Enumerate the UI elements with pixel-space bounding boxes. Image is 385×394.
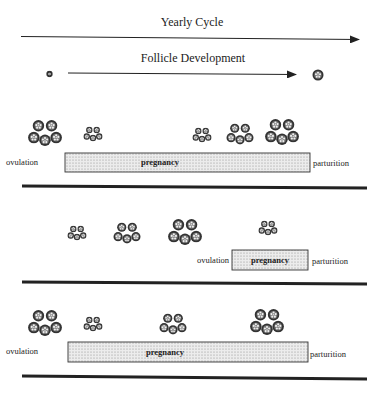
yearly-cycle-arrow — [21, 37, 359, 40]
ground-line — [22, 186, 367, 188]
ground-line — [22, 376, 367, 379]
follicle-icon — [179, 233, 191, 245]
pregnancy-bar — [65, 153, 310, 172]
follicle-icon — [128, 223, 137, 232]
follicle-icon — [93, 127, 99, 133]
follicle-icon — [28, 132, 40, 144]
follicle-cluster-small — [259, 221, 278, 236]
follicle-cluster-large — [265, 119, 299, 145]
follicle-icon — [195, 128, 201, 134]
follicle-icon — [86, 127, 92, 133]
follicle-icon — [186, 219, 198, 231]
follicle-icon — [70, 226, 76, 232]
follicle-icon — [84, 133, 90, 139]
follicle-development-label: Follicle Development — [141, 51, 246, 65]
follicle-icon — [113, 232, 122, 241]
pregnancy-label: pregnancy — [146, 347, 185, 357]
follicle-cluster-large — [250, 309, 284, 335]
ovulation-label: ovulation — [197, 255, 230, 265]
follicle-icon — [244, 133, 253, 142]
follicle-icon — [77, 226, 83, 232]
follicle-icon — [122, 234, 131, 243]
small-follicle-icon — [46, 71, 52, 77]
follicle-cluster-small — [84, 317, 103, 332]
ovulation-label: ovulation — [6, 346, 39, 356]
follicle-icon — [199, 136, 205, 142]
follicle-cluster-medium — [113, 223, 140, 244]
follicle-clusters — [28, 309, 284, 336]
follicle-icon — [268, 221, 274, 227]
follicle-icon — [68, 232, 74, 238]
follicle-icon — [265, 229, 271, 235]
follicle-icon — [80, 232, 86, 238]
follicle-icon — [193, 134, 199, 140]
follicle-development-arrow — [68, 73, 296, 75]
follicle-icon — [168, 325, 177, 334]
follicle-icon — [117, 223, 126, 232]
follicle-icon — [39, 134, 51, 146]
follicle-icon — [261, 323, 273, 335]
follicle-icon — [205, 134, 211, 140]
follicle-clusters — [68, 219, 278, 245]
follicle-cluster-small — [68, 226, 87, 241]
parturition-label: parturition — [312, 256, 349, 266]
follicle-icon — [74, 234, 80, 240]
follicle-cluster-large — [168, 219, 202, 245]
follicle-icon — [235, 135, 244, 144]
follicle-icon — [265, 131, 277, 143]
follicle-icon — [276, 133, 288, 145]
follicle-cluster-small — [84, 127, 103, 142]
pregnancy-label: pregnancy — [141, 157, 180, 167]
cycle-row-1: ovulation pregnancy parturition — [6, 119, 367, 188]
follicle-icon — [174, 314, 183, 323]
follicle-icon — [96, 323, 102, 329]
follicle-icon — [46, 120, 58, 132]
follicle-icon — [33, 120, 45, 132]
follicle-icon — [177, 323, 186, 332]
follicle-icon — [271, 227, 277, 233]
follicle-icon — [261, 221, 267, 227]
pregnancy-bar — [68, 342, 308, 362]
follicle-icon — [50, 132, 62, 144]
follicle-cluster-large — [28, 310, 62, 336]
parturition-label: parturition — [310, 349, 347, 359]
follicle-icon — [168, 231, 180, 243]
follicle-icon — [270, 119, 282, 131]
follicle-icon — [173, 219, 185, 231]
follicle-icon — [255, 309, 267, 321]
follicle-icon — [90, 135, 96, 141]
follicle-icon — [46, 310, 58, 322]
follicle-icon — [84, 323, 90, 329]
reproductive-cycle-diagram: Yearly Cycle Follicle Development ovulat… — [0, 0, 385, 394]
follicle-icon — [93, 317, 99, 323]
follicle-icon — [283, 119, 295, 131]
follicle-icon — [131, 232, 140, 241]
follicle-cluster-small — [193, 128, 212, 143]
follicle-icon — [272, 321, 284, 333]
follicle-icon — [159, 323, 168, 332]
follicle-icon — [226, 133, 235, 142]
follicle-icon — [86, 317, 92, 323]
follicle-icon — [259, 227, 265, 233]
yearly-cycle-label: Yearly Cycle — [161, 15, 223, 29]
follicle-icon — [90, 325, 96, 331]
follicle-cluster-medium — [226, 124, 253, 145]
large-follicle-icon — [312, 69, 323, 80]
pregnancy-label: pregnancy — [251, 255, 290, 265]
follicle-icon — [163, 314, 172, 323]
follicle-icon — [96, 133, 102, 139]
follicle-icon — [241, 124, 250, 133]
follicle-icon — [287, 131, 299, 143]
cycle-row-3: ovulation pregnancy parturition — [6, 309, 367, 379]
ovulation-label: ovulation — [6, 157, 39, 167]
follicle-icon — [230, 124, 239, 133]
follicle-cluster-large — [28, 120, 62, 146]
follicle-cluster-medium — [159, 314, 186, 335]
ground-line — [22, 282, 367, 284]
follicle-icon — [33, 310, 45, 322]
follicle-icon — [50, 322, 62, 334]
follicle-icon — [250, 321, 262, 333]
parturition-label: parturition — [313, 158, 350, 168]
follicle-icon — [268, 309, 280, 321]
follicle-icon — [190, 231, 202, 243]
